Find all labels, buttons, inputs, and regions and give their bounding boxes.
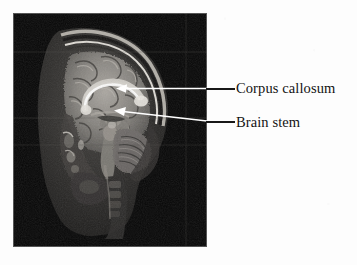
sagittal-mri-scan [13,13,207,247]
leader-line-brain-stem [206,121,235,123]
leader-line-corpus-callosum [206,88,235,90]
mri-grain [13,13,207,247]
label-corpus-callosum: Corpus callosum [236,81,335,96]
mri-image [13,13,207,247]
label-brain-stem: Brain stem [236,115,300,130]
figure-container: Corpus callosum Brain stem [0,0,357,265]
